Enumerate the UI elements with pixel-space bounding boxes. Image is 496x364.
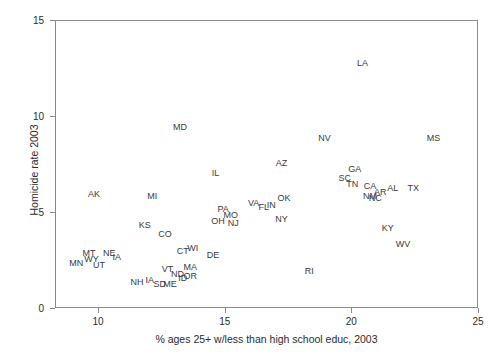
- data-points-layer: AKMTMNWYUTNEIANHIASDMEVTNDIDORMAKSCOCTWI…: [56, 21, 477, 307]
- y-axis-title: Homicide rate 2003: [28, 80, 40, 260]
- x-tick-label: 15: [219, 316, 230, 327]
- data-point-label: KY: [382, 224, 394, 233]
- data-point-label: MN: [69, 258, 83, 267]
- data-point-label: AK: [88, 189, 100, 198]
- x-tick-mark: [225, 308, 226, 313]
- x-tick-label: 20: [346, 316, 357, 327]
- data-point-label: UT: [93, 260, 105, 269]
- data-point-label: MS: [427, 134, 441, 143]
- data-point-label: WI: [187, 243, 198, 252]
- y-tick-label: 0: [0, 303, 44, 314]
- y-tick-label: 15: [0, 15, 44, 26]
- data-point-label: AZ: [276, 159, 288, 168]
- data-point-label: AL: [387, 184, 398, 193]
- data-point-label: TN: [346, 180, 358, 189]
- data-point-label: LA: [357, 59, 368, 68]
- data-point-label: ME: [163, 280, 177, 289]
- plot-area: AKMTMNWYUTNEIANHIASDMEVTNDIDORMAKSCOCTWI…: [55, 20, 478, 308]
- data-point-label: MI: [147, 191, 157, 200]
- data-point-label: NY: [275, 214, 288, 223]
- data-point-label: CO: [158, 230, 172, 239]
- data-point-label: RI: [305, 266, 314, 275]
- data-point-label: NH: [131, 278, 144, 287]
- data-point-label: NJ: [228, 218, 239, 227]
- data-point-label: DE: [207, 251, 220, 260]
- data-point-label: MA: [183, 262, 197, 271]
- data-point-label: NV: [318, 134, 331, 143]
- data-point-label: IN: [267, 201, 276, 210]
- data-point-label: WV: [396, 239, 411, 248]
- data-point-label: TX: [407, 184, 419, 193]
- data-point-label: OK: [277, 193, 290, 202]
- data-point-label: MD: [173, 122, 187, 131]
- x-tick-mark: [351, 308, 352, 313]
- x-tick-label: 10: [92, 316, 103, 327]
- y-tick-mark: [50, 308, 55, 309]
- data-point-label: IA: [113, 253, 122, 262]
- data-point-label: OR: [183, 272, 197, 281]
- x-axis-title: % ages 25+ w/less than high school educ,…: [55, 333, 478, 345]
- x-tick-mark: [98, 308, 99, 313]
- data-point-label: AR: [374, 187, 387, 196]
- data-point-label: GA: [348, 164, 361, 173]
- data-point-label: KS: [139, 220, 151, 229]
- x-tick-mark: [478, 308, 479, 313]
- x-tick-label: 25: [472, 316, 483, 327]
- data-point-label: IL: [212, 168, 220, 177]
- scatter-chart: 051015 10152025 AKMTMNWYUTNEIANHIASDMEVT…: [0, 0, 496, 364]
